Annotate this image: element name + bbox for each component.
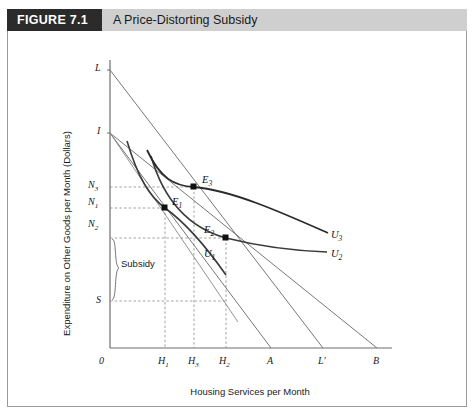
x-tick-Lprime: L' [318, 355, 326, 366]
y-axis-title: Expenditure on Other Goods per Month (Do… [61, 124, 72, 344]
point-E1 [162, 205, 168, 211]
label-E3: E3 [202, 174, 212, 188]
label-U3: U3 [331, 229, 342, 243]
point-E3 [191, 184, 197, 190]
x-tick-H1: H1 [158, 355, 169, 369]
subsidy-annotation: Subsidy [121, 258, 155, 269]
label-E2: E2 [204, 224, 214, 238]
label-U1: U1 [204, 248, 215, 262]
y-tick-N3: N3 [88, 179, 98, 193]
y-tick-I: I [97, 125, 100, 136]
x-tick-B: B [373, 355, 379, 366]
y-tick-N2: N2 [88, 218, 98, 232]
budget-line-I-A [110, 133, 271, 348]
y-tick-L: L [95, 62, 101, 73]
x-tick-H3: H3 [188, 355, 199, 369]
label-E1: E1 [172, 196, 182, 210]
origin-label: 0 [99, 355, 104, 366]
budget-line-L-Lprime [110, 70, 323, 348]
point-E2 [223, 235, 229, 241]
x-axis-title: Housing Services per Month [160, 386, 340, 397]
label-U2: U2 [331, 248, 342, 262]
x-tick-H2: H2 [219, 355, 230, 369]
indifference-curve-U3 [147, 150, 328, 233]
x-tick-A: A [267, 355, 273, 366]
subsidy-brace [112, 239, 119, 300]
y-tick-S: S [96, 294, 101, 305]
figure-container: FIGURE 7.1 A Price-Distorting Subsidy [0, 0, 474, 415]
y-tick-N1: N1 [88, 196, 98, 210]
budget-line-I-helper [110, 133, 238, 322]
